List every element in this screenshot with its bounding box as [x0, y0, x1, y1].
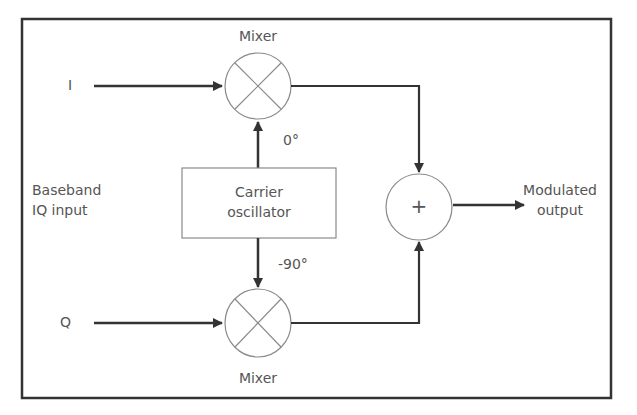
mixer-top-label: Mixer [228, 28, 288, 45]
mixer-top-icon [225, 53, 291, 119]
output-label-line1: Modulated [520, 182, 600, 199]
baseband-label-line1: Baseband [32, 182, 101, 199]
carrier-label-line2: oscillator [182, 204, 336, 221]
mixer-bottom-label: Mixer [228, 370, 288, 387]
phase-minus-90-label: -90° [278, 256, 308, 273]
mixer-bottom-output-line [291, 242, 419, 323]
phase-0-label: 0° [283, 132, 299, 149]
baseband-label-line2: IQ input [32, 202, 88, 219]
i-input-label: I [68, 77, 72, 94]
mixer-top-output-line [291, 86, 419, 172]
carrier-label-line1: Carrier [182, 184, 336, 201]
carrier-oscillator-box [182, 168, 336, 238]
adder-plus-symbol: + [404, 195, 434, 217]
mixer-bottom-icon [225, 289, 291, 357]
output-label-line2: output [520, 202, 600, 219]
q-input-label: Q [60, 314, 71, 331]
